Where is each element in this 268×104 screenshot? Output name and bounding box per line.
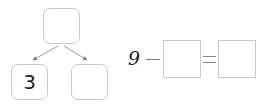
bond-total-box[interactable] [43, 8, 80, 44]
bond-arrow-left [33, 46, 58, 60]
bond-part-left-box[interactable]: 3 [11, 64, 48, 100]
minus-sign-icon [146, 59, 160, 60]
subtraction-equation: 9 [128, 38, 268, 80]
equation-subtrahend-box[interactable] [163, 40, 201, 78]
equation-minuend: 9 [128, 49, 140, 70]
bond-arrow-right [64, 46, 87, 60]
number-bond-diagram: 3 [0, 0, 110, 104]
bond-part-left-value: 3 [23, 72, 36, 93]
worksheet-exercise: 3 9 [0, 0, 268, 104]
equation-difference-box[interactable] [218, 40, 256, 78]
equals-sign-icon [203, 56, 216, 63]
bond-part-right-box[interactable] [71, 64, 108, 100]
